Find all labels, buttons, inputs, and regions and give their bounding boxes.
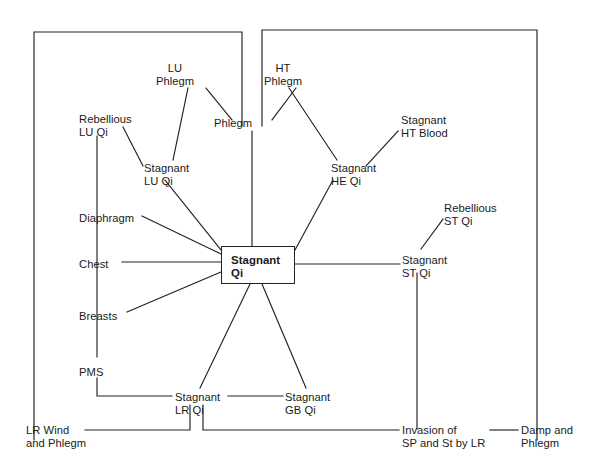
node-phlegm[interactable]: Phlegm [214, 117, 252, 130]
center-node-label: Stagnant Qi [231, 254, 280, 280]
node-lu-phlegm[interactable]: LU Phlegm [156, 62, 194, 87]
edge-stagnant-lu-qi-to-center [165, 180, 221, 250]
node-stagnant-ht-blood[interactable]: Stagnant HT Blood [401, 114, 448, 139]
node-stagnant-gb-qi[interactable]: Stagnant GB Qi [285, 391, 330, 416]
node-diaphragm[interactable]: Diaphragm [79, 212, 134, 225]
node-lr-wind-phlegm[interactable]: LR Wind and Phlegm [26, 424, 86, 449]
node-stagnant-st-qi[interactable]: Stagnant ST Qi [402, 254, 447, 279]
diagram-canvas: Stagnant Qi LU PhlegmHT PhlegmPhlegmRebe… [0, 0, 600, 474]
edge-border-left-top-to-phlegm-left [34, 32, 242, 440]
node-stagnant-he-qi[interactable]: Stagnant HE Qi [331, 162, 376, 187]
node-invasion-sp-st[interactable]: Invasion of SP and St by LR [402, 424, 485, 449]
node-rebellious-st-qi[interactable]: Rebellious ST Qi [444, 202, 497, 227]
center-node-stagnant-qi[interactable]: Stagnant Qi [221, 246, 295, 284]
edge-diaphragm-to-center [142, 216, 221, 254]
edge-ht-phlegm-to-stagnant-he-qi [289, 88, 337, 160]
edge-stagnant-he-qi-to-center [295, 180, 333, 250]
edge-breasts-to-center [127, 272, 221, 312]
node-stagnant-lr-qi[interactable]: Stagnant LR Qi [175, 391, 220, 416]
node-breasts[interactable]: Breasts [79, 310, 117, 323]
node-ht-phlegm[interactable]: HT Phlegm [264, 62, 302, 87]
node-rebellious-lu-qi[interactable]: Rebellious LU Qi [79, 113, 132, 138]
edge-center-to-stagnant-gb-qi [262, 284, 306, 388]
node-stagnant-lu-qi[interactable]: Stagnant LU Qi [144, 162, 189, 187]
node-pms[interactable]: PMS [79, 366, 103, 379]
edge-lu-phlegm-to-phlegm [206, 88, 232, 120]
edge-lu-phlegm-to-stagnant-lu-qi [173, 88, 188, 160]
edge-ht-phlegm-to-phlegm [272, 88, 296, 120]
edge-pms-to-stagnant-lr-qi [97, 378, 172, 396]
edge-stagnant-st-qi-to-rebellious-st-qi [421, 219, 443, 249]
node-damp-phlegm[interactable]: Damp and Phlegm [521, 424, 573, 449]
edge-stagnant-ht-blood-to-stagnant-he-qi [366, 131, 398, 166]
edge-center-to-stagnant-lr-qi [200, 284, 250, 388]
edge-border-right-top-to-phlegm-right [262, 30, 537, 440]
node-chest[interactable]: Chest [79, 258, 108, 271]
